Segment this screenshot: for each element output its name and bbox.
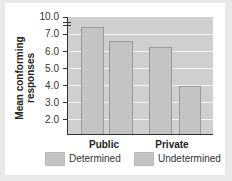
x-category-public: Public [74, 139, 134, 150]
y-tick-label-5: 5.0 [29, 63, 59, 74]
legend-swatch-determined [45, 152, 65, 166]
bar-public-undetermined [109, 41, 133, 134]
y-tick-label-10: 10.0 [29, 11, 59, 22]
legend-label-undetermined: Undetermined [158, 153, 221, 164]
chart-panel: Mean conforming responses 10.0 7.0 6.0 5… [5, 3, 225, 175]
y-axis-label-line1: Mean conforming [14, 36, 25, 119]
y-tick [63, 102, 67, 103]
bar-public-determined [81, 27, 104, 134]
axis-break-mark [63, 25, 71, 26]
y-tick [63, 119, 67, 120]
y-tick [63, 51, 67, 52]
y-tick-label-6: 6.0 [29, 46, 59, 57]
y-tick-label-7: 7.0 [29, 28, 59, 39]
plot-area [67, 17, 213, 135]
y-tick-label-3: 3.0 [29, 97, 59, 108]
x-category-private: Private [142, 139, 202, 150]
axis-break-mark [63, 22, 71, 23]
legend-label-determined: Determined [69, 153, 121, 164]
legend-swatch-undetermined [134, 152, 154, 166]
y-tick [63, 17, 67, 18]
legend: Determined Undetermined [5, 152, 225, 170]
bar-private-determined [149, 47, 172, 134]
y-tick-label-2: 2.0 [29, 114, 59, 125]
y-tick [63, 34, 67, 35]
y-axis-label: Mean conforming responses [5, 3, 45, 153]
y-tick [63, 85, 67, 86]
y-tick [63, 68, 67, 69]
bar-private-undetermined [179, 86, 201, 134]
y-tick-label-4: 4.0 [29, 80, 59, 91]
